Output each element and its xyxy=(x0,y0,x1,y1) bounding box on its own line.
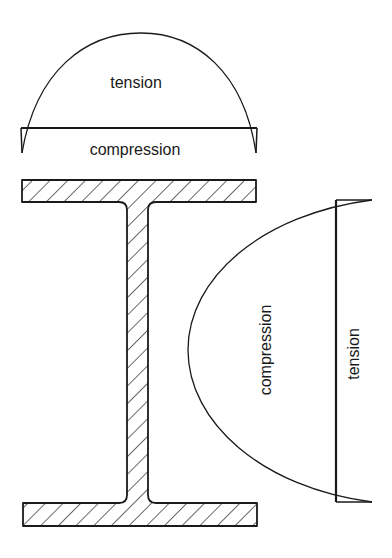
i-beam-section xyxy=(22,180,257,526)
web-tension-label: tension xyxy=(345,328,362,380)
i-beam-outline xyxy=(22,180,257,526)
diagram-canvas: tension compression compression tension xyxy=(0,0,392,558)
flange-tension-label: tension xyxy=(110,74,162,91)
right-end-tick xyxy=(256,128,257,153)
flange-compression-label: compression xyxy=(90,141,181,158)
web-compression-label: compression xyxy=(257,305,274,396)
flange-stress-diagram: tension compression xyxy=(21,33,257,158)
left-end-tick xyxy=(21,128,22,153)
web-stress-diagram: compression tension xyxy=(188,200,372,502)
tension-parabola xyxy=(22,33,256,153)
